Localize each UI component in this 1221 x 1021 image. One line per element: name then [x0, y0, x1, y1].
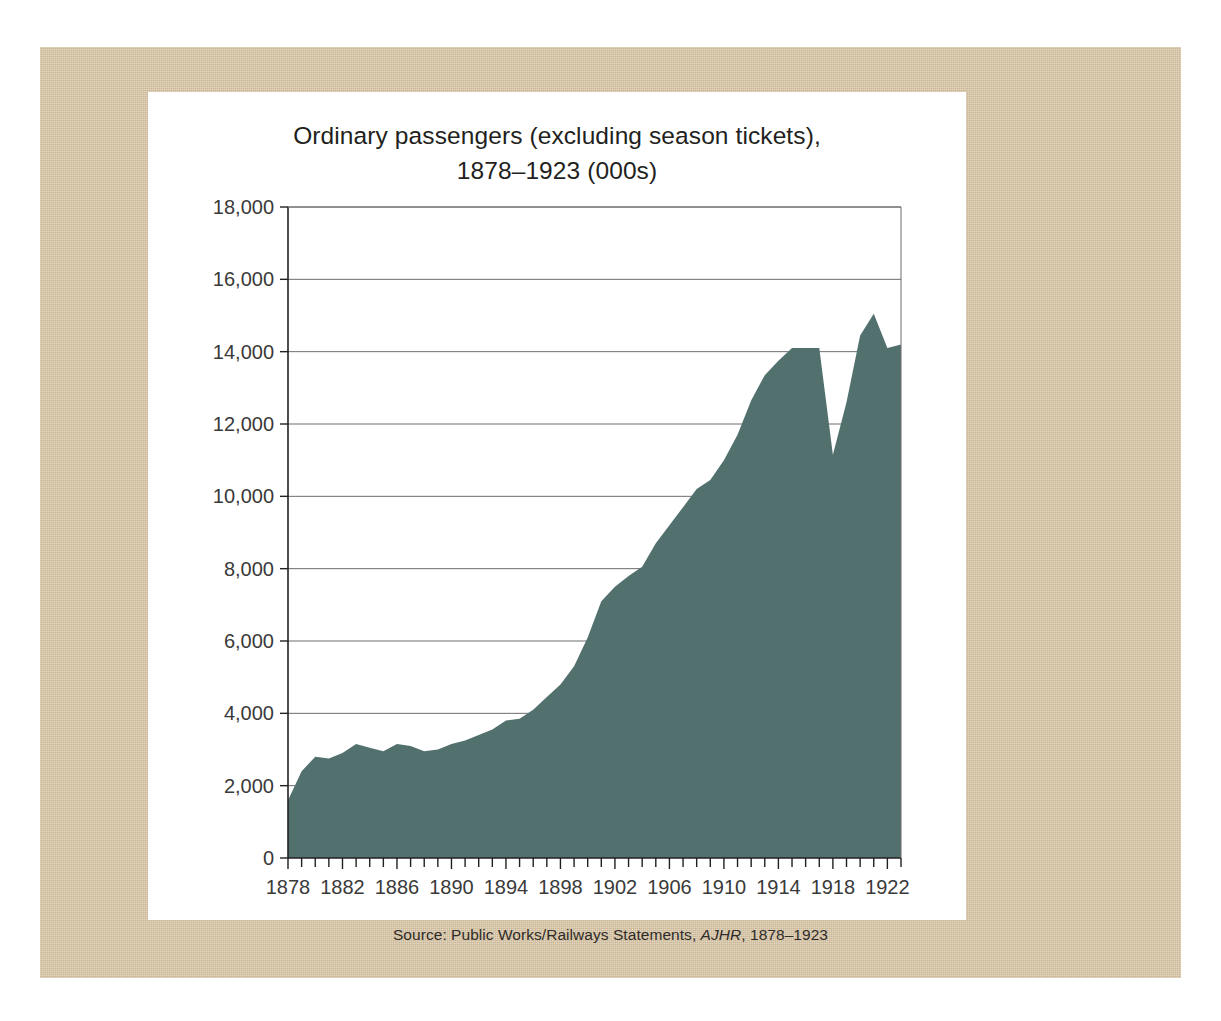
y-tick-label: 0	[263, 847, 274, 869]
source-caption: Source: Public Works/Railways Statements…	[40, 926, 1181, 944]
source-suffix: , 1878–1923	[741, 926, 828, 943]
y-tick-label: 18,000	[213, 196, 274, 218]
y-tick-label: 4,000	[224, 702, 274, 724]
y-tick-label: 16,000	[213, 268, 274, 290]
x-tick-label: 1918	[811, 876, 856, 898]
y-tick-label: 2,000	[224, 775, 274, 797]
x-tick-label: 1902	[593, 876, 638, 898]
y-axis-tick-labels: 02,0004,0006,0008,00010,00012,00014,0001…	[213, 196, 274, 869]
y-tick-label: 10,000	[213, 485, 274, 507]
x-tick-label: 1922	[865, 876, 910, 898]
x-axis-ticks	[288, 858, 901, 869]
plot-area: 02,0004,0006,0008,00010,00012,00014,0001…	[148, 92, 966, 920]
y-tick-label: 6,000	[224, 630, 274, 652]
x-axis-tick-labels: 1878188218861890189418981902190619101914…	[266, 876, 910, 898]
figure-mat-panel: Ordinary passengers (excluding season ti…	[40, 47, 1181, 978]
area-chart-svg: 02,0004,0006,0008,00010,00012,00014,0001…	[148, 92, 966, 920]
y-tick-label: 8,000	[224, 558, 274, 580]
y-tick-label: 12,000	[213, 413, 274, 435]
x-tick-label: 1882	[320, 876, 365, 898]
x-tick-label: 1890	[429, 876, 474, 898]
x-tick-label: 1906	[647, 876, 692, 898]
x-tick-label: 1898	[538, 876, 583, 898]
y-tick-label: 14,000	[213, 341, 274, 363]
source-prefix: Source: Public Works/Railways Statements…	[393, 926, 701, 943]
x-tick-label: 1914	[756, 876, 801, 898]
x-tick-label: 1878	[266, 876, 311, 898]
y-axis-ticks	[280, 207, 288, 858]
chart-card: Ordinary passengers (excluding season ti…	[148, 92, 966, 920]
source-publication: AJHR	[701, 926, 742, 943]
x-tick-label: 1886	[375, 876, 420, 898]
x-tick-label: 1894	[484, 876, 529, 898]
passenger-area-series	[288, 314, 901, 858]
x-tick-label: 1910	[702, 876, 747, 898]
